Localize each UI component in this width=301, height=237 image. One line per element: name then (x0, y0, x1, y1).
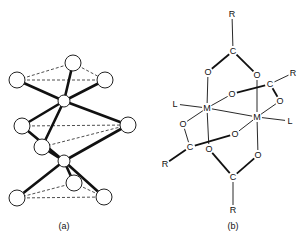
bond-line (207, 77, 208, 103)
dashed-edge (42, 125, 128, 147)
metal-atom-circle (58, 95, 70, 107)
metal-atom-circle (58, 155, 70, 167)
bond-line (212, 54, 229, 69)
figure-a-sandwich-structure: (a) (9, 55, 136, 231)
bond-line (207, 113, 209, 144)
atom-label-c: C (230, 46, 237, 56)
dashed-edge (22, 125, 128, 126)
atom-label-m: M (203, 103, 211, 113)
ring-atom-circle (120, 117, 136, 133)
diagram-canvas: (a) RCOORCOOLMMLOOCOORCR (b) (0, 0, 301, 237)
atom-label-l: L (287, 116, 292, 126)
ring-atom-circle (14, 118, 30, 134)
bond-line (237, 158, 254, 173)
ring-atom-circle (97, 72, 113, 88)
figure-b-carboxylate-bridged-dimer: RCOORCOOLMMLOOCOORCR (b) (162, 9, 297, 231)
bond-line (237, 85, 265, 92)
atom-label-o: O (204, 67, 211, 77)
figure-b-caption: (b) (228, 221, 239, 231)
atom-label-o: O (205, 144, 212, 154)
dashed-edge (17, 63, 73, 80)
bond-line (187, 111, 203, 121)
atom-label-r: R (290, 68, 297, 78)
ring-atom-circle (9, 72, 25, 88)
atom-label-l: L (172, 99, 177, 109)
bond-line (261, 104, 276, 114)
bond-line (212, 153, 229, 173)
bond-line (212, 109, 252, 116)
ring-atom-circle (34, 139, 50, 155)
atom-label-r: R (162, 159, 169, 169)
metal-ligand-bond (64, 125, 128, 161)
atom-label-r: R (230, 205, 237, 215)
bond-line (275, 75, 289, 82)
bond-line (211, 96, 227, 105)
metal-ligand-bond (17, 161, 64, 198)
atom-label-c: C (187, 142, 194, 152)
atom-label-o: O (179, 119, 186, 129)
atom-label-o: O (231, 129, 238, 139)
atom-label-c: C (230, 172, 237, 182)
ring-atom-circle (65, 55, 81, 71)
bond-line (239, 120, 253, 131)
atom-label-m: M (253, 112, 261, 122)
bond-line (232, 19, 233, 46)
bond-line (180, 105, 202, 108)
ring-atom-circle (96, 189, 112, 205)
atom-label-r: R (229, 9, 236, 19)
atom-label-o: O (253, 70, 260, 80)
ring-atom-circle (66, 175, 82, 191)
atom-label-o: O (276, 96, 283, 106)
metal-ligand-bond (64, 101, 128, 125)
ring-atom-circle (9, 190, 25, 206)
bond-line (237, 55, 254, 72)
bond-line (262, 118, 285, 121)
atom-label-o: O (254, 150, 261, 160)
bond-line (257, 122, 258, 150)
atom-label-o: O (228, 89, 235, 99)
dashed-edge (17, 197, 104, 198)
bond-line (169, 150, 186, 161)
figure-a-caption: (a) (59, 221, 70, 231)
atom-label-c: C (267, 79, 274, 89)
bond-line (184, 129, 188, 142)
